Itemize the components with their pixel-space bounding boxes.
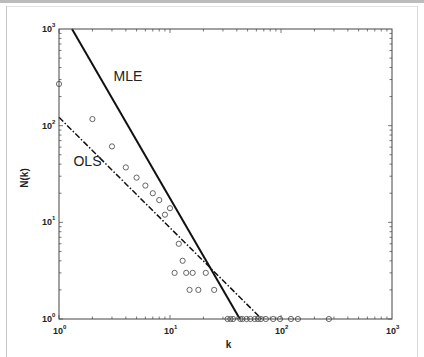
- svg-text:0: 0: [63, 324, 67, 330]
- svg-text:0: 0: [52, 312, 56, 318]
- data-point: [134, 175, 139, 180]
- data-point: [190, 270, 195, 275]
- log-log-chart: 100101102103100101102103 k N(k) MLE OLS: [0, 0, 424, 357]
- y-tick-label: 100: [42, 312, 56, 324]
- svg-text:10: 10: [42, 314, 52, 324]
- data-point: [187, 287, 192, 292]
- mle-annotation: MLE: [114, 68, 143, 84]
- data-point: [123, 165, 128, 170]
- y-tick-label: 102: [42, 119, 56, 131]
- y-tick-label: 101: [42, 215, 56, 227]
- svg-text:10: 10: [164, 326, 174, 336]
- data-point: [90, 116, 95, 121]
- ols-fit-line: [59, 117, 262, 319]
- svg-text:1: 1: [52, 215, 56, 221]
- data-point: [157, 197, 162, 202]
- svg-text:3: 3: [52, 22, 56, 28]
- data-point: [143, 183, 148, 188]
- x-tick-label: 103: [386, 324, 400, 336]
- fit-lines: [59, 29, 262, 319]
- data-point: [196, 287, 201, 292]
- svg-text:2: 2: [285, 324, 289, 330]
- svg-text:3: 3: [396, 324, 400, 330]
- data-point: [150, 191, 155, 196]
- x-tick-label: 100: [53, 324, 67, 336]
- data-point: [167, 206, 172, 211]
- x-tick-label: 101: [164, 324, 178, 336]
- x-axis-label: k: [226, 339, 232, 350]
- svg-text:10: 10: [53, 326, 63, 336]
- data-point: [180, 258, 185, 263]
- svg-text:10: 10: [42, 121, 52, 131]
- plot-area: [59, 29, 392, 319]
- axis-ticks: [59, 29, 392, 319]
- svg-text:10: 10: [42, 24, 52, 34]
- data-point: [203, 270, 208, 275]
- data-point: [172, 270, 177, 275]
- ols-annotation: OLS: [73, 153, 101, 169]
- data-point: [184, 270, 189, 275]
- x-tick-label: 102: [275, 324, 289, 336]
- mle-fit-line: [72, 29, 240, 319]
- svg-text:2: 2: [52, 119, 56, 125]
- data-point: [162, 212, 167, 217]
- svg-text:1: 1: [174, 324, 178, 330]
- y-axis-label: N(k): [19, 168, 30, 187]
- data-point: [176, 241, 181, 246]
- svg-text:10: 10: [275, 326, 285, 336]
- data-point: [212, 287, 217, 292]
- svg-text:10: 10: [42, 217, 52, 227]
- svg-text:10: 10: [386, 326, 396, 336]
- data-point: [109, 144, 114, 149]
- data-points: [56, 81, 331, 321]
- y-tick-label: 103: [42, 22, 56, 34]
